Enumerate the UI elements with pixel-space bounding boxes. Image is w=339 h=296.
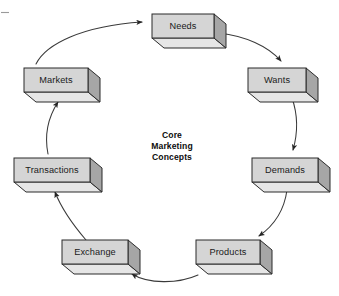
edge-products-to-exchange: [132, 274, 198, 282]
node-exchange[interactable]: Exchange: [62, 240, 140, 274]
node-exchange-label: Exchange: [74, 247, 116, 257]
node-wants-label: Wants: [264, 75, 291, 85]
node-transactions-label: Transactions: [25, 165, 79, 175]
node-transactions[interactable]: Transactions: [14, 158, 102, 192]
center-title-line-1: Core: [162, 130, 182, 140]
node-demands-label: Demands: [265, 165, 305, 175]
node-exchange-bottom-face: [62, 264, 140, 274]
node-wants[interactable]: Wants: [248, 68, 318, 102]
edge-wants-to-demands: [292, 98, 297, 150]
node-needs-label: Needs: [169, 21, 196, 31]
edge-exchange-to-transactions: [55, 192, 86, 240]
core-marketing-concepts-diagram: Needs Wants Demands Products: [0, 0, 339, 296]
node-needs-bottom-face: [152, 38, 226, 48]
center-title: Core Marketing Concepts: [151, 130, 193, 162]
diagram-canvas: Needs Wants Demands Products: [0, 0, 339, 296]
node-needs[interactable]: Needs: [152, 14, 226, 48]
node-markets-bottom-face: [24, 92, 100, 102]
center-title-line-3: Concepts: [152, 152, 192, 162]
node-markets[interactable]: Markets: [24, 68, 100, 102]
center-title-line-2: Marketing: [151, 141, 193, 151]
edge-markets-to-needs: [36, 22, 142, 64]
node-products-bottom-face: [196, 264, 272, 274]
edge-needs-to-wants: [219, 33, 281, 61]
edge-demands-to-products: [259, 190, 287, 236]
node-demands[interactable]: Demands: [252, 158, 330, 192]
node-transactions-bottom-face: [14, 182, 102, 192]
node-products[interactable]: Products: [196, 240, 272, 274]
node-demands-bottom-face: [252, 182, 330, 192]
edge-transactions-to-markets: [47, 102, 58, 154]
node-markets-label: Markets: [39, 75, 73, 85]
node-products-label: Products: [209, 247, 246, 257]
